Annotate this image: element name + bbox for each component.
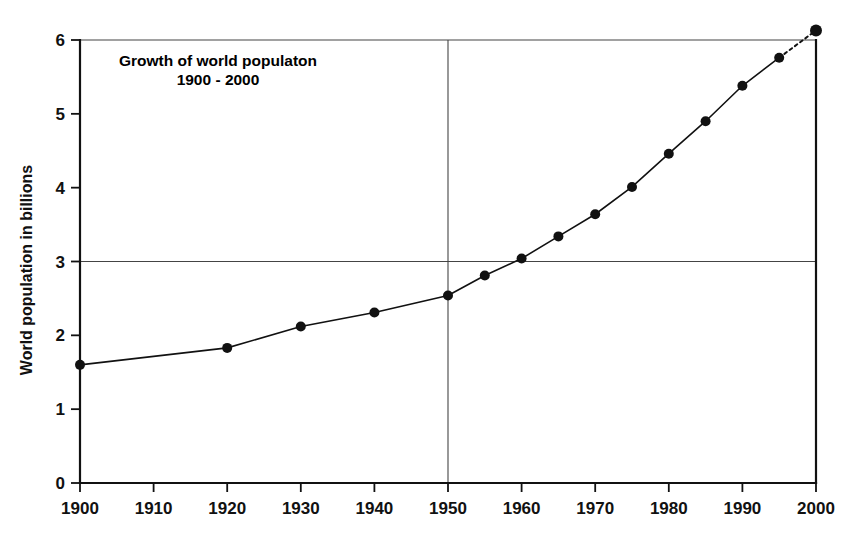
x-tick-label-1980: 1980 [650,499,688,518]
data-point-1965 [553,231,563,241]
data-point-1940 [369,307,379,317]
data-point-1950 [443,290,453,300]
data-point-1990 [737,81,747,91]
x-tick-label-1930: 1930 [282,499,320,518]
y-tick-label-5: 5 [56,105,65,124]
x-tick-label-1900: 1900 [61,499,99,518]
data-point-1900 [75,360,85,370]
data-point-1980 [664,149,674,159]
data-point-1930 [296,321,306,331]
x-tick-label-2000: 2000 [797,499,835,518]
y-tick-label-1: 1 [56,400,65,419]
data-point-1960 [517,254,527,264]
chart-subtitle: 1900 - 2000 [177,71,260,88]
x-tick-label-1920: 1920 [208,499,246,518]
x-tick-label-1990: 1990 [723,499,761,518]
x-tick-label-1940: 1940 [355,499,393,518]
y-tick-label-3: 3 [56,253,65,272]
y-tick-label-0: 0 [56,474,65,493]
data-point-1955 [480,271,490,281]
data-point-1920 [222,343,232,353]
x-tick-label-1910: 1910 [135,499,173,518]
y-tick-label-2: 2 [56,326,65,345]
line-chart: 1900191019201930194019501960197019801990… [0,0,851,542]
x-tick-label-1950: 1950 [429,499,467,518]
data-point-1975 [627,182,637,192]
y-tick-label-6: 6 [56,31,65,50]
chart-background [0,0,851,542]
data-point-1970 [590,209,600,219]
chart-title: Growth of world populaton [119,52,317,69]
population-growth-figure: 1900191019201930194019501960197019801990… [0,0,851,542]
y-tick-label-4: 4 [56,179,66,198]
data-point-2000 [810,24,822,36]
x-tick-label-1960: 1960 [503,499,541,518]
data-point-1985 [701,116,711,126]
x-tick-label-1970: 1970 [576,499,614,518]
y-axis-title: World population in billions [18,165,35,375]
data-point-1995 [774,53,784,63]
